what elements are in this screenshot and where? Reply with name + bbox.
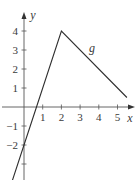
function-label-g: g <box>89 41 95 55</box>
function-graph: 1 2 3 4 5 x 4 3 2 1 −1 −2 y <box>0 0 136 180</box>
x-axis: 1 2 3 4 5 x <box>2 105 135 126</box>
y-tick-minus-1: −1 <box>6 120 18 132</box>
x-tick-4: 4 <box>96 111 102 123</box>
x-tick-5: 5 <box>115 111 121 123</box>
g-line <box>12 31 127 180</box>
x-tick-2: 2 <box>59 111 65 123</box>
y-tick-2: 2 <box>13 63 19 75</box>
y-tick-4: 4 <box>13 25 19 37</box>
function-g: g <box>12 31 127 180</box>
y-axis-arrow-icon <box>22 12 27 19</box>
y-tick-1: 1 <box>13 82 19 94</box>
x-axis-arrow-icon <box>128 105 135 110</box>
x-tick-3: 3 <box>77 111 83 123</box>
x-axis-label: x <box>126 111 133 125</box>
y-tick-3: 3 <box>13 44 19 56</box>
x-tick-1: 1 <box>40 111 46 123</box>
y-axis-label: y <box>29 8 36 22</box>
y-tick-minus-2: −2 <box>6 139 18 151</box>
